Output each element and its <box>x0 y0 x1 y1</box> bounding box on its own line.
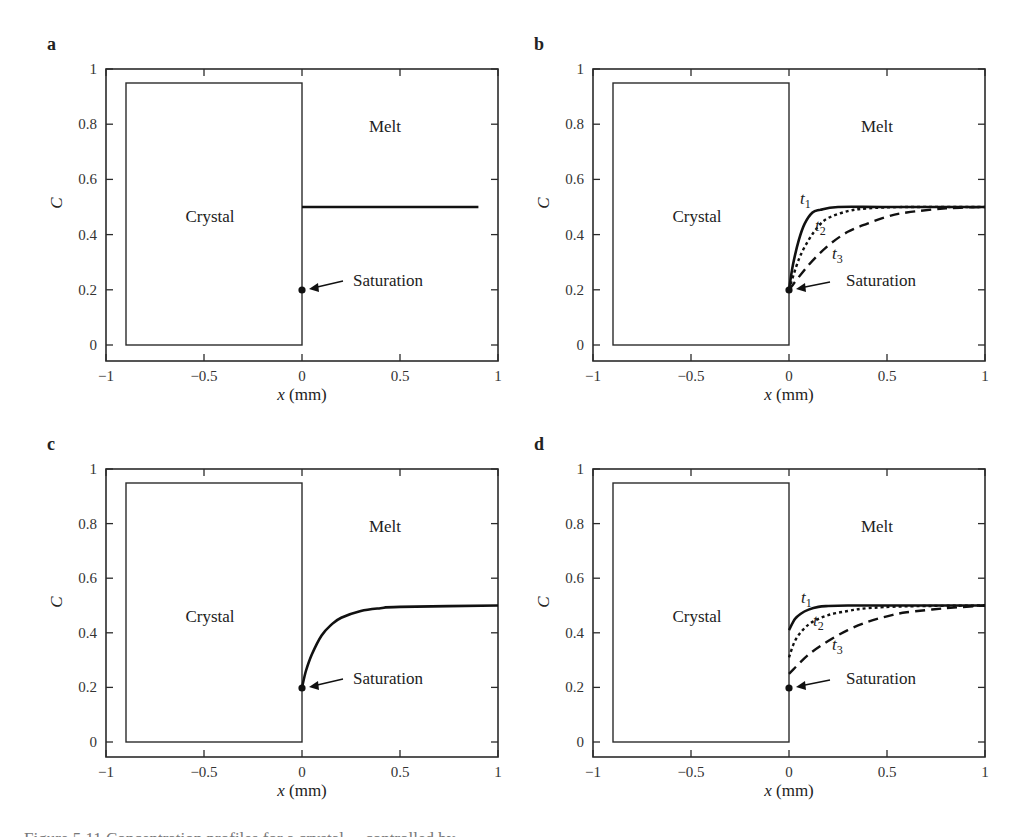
y-tick-label: 1 <box>577 61 585 77</box>
y-tick-label: 0.2 <box>565 679 584 695</box>
curve-label-t3: t3 <box>832 635 843 657</box>
x-tick-label: 1 <box>981 764 989 780</box>
panel-letter: c <box>47 434 55 454</box>
panel-d: d −1 −0.5 0 0.5 1 0 0.2 0.4 0.6 0.8 1 C … <box>534 434 989 800</box>
y-tick-label: 0 <box>90 734 98 750</box>
x-tick-labels: −1 −0.5 0 0.5 1 <box>585 764 989 780</box>
y-tick-label: 0.8 <box>565 116 584 132</box>
x-tick-label: −1 <box>98 368 114 384</box>
curve-t3 <box>789 606 985 674</box>
y-tick-label: 0.8 <box>78 516 97 532</box>
x-tick-label: 1 <box>981 368 989 384</box>
t-subscript: 3 <box>837 252 843 266</box>
crystal-label: Crystal <box>185 607 234 626</box>
y-tick-label: 0.6 <box>565 171 584 187</box>
saturation-point <box>785 286 792 293</box>
t-subscript: 2 <box>818 619 824 633</box>
x-tick-label: 1 <box>494 368 502 384</box>
saturation-label: Saturation <box>846 669 916 688</box>
x-tick-label: −0.5 <box>190 368 217 384</box>
panel-letter: b <box>534 34 544 54</box>
t-subscript: 1 <box>806 596 812 610</box>
curves <box>789 605 985 673</box>
t-subscript: 1 <box>805 197 811 211</box>
y-tick-labels: 0 0.2 0.4 0.6 0.8 1 <box>565 61 584 353</box>
x-axis-unit: (mm) <box>772 385 814 404</box>
curve-label-t2: t2 <box>813 611 824 633</box>
curve-label-t3: t3 <box>832 244 843 266</box>
x-axis-label: x (mm) <box>276 385 327 404</box>
y-axis-label: C <box>47 596 66 608</box>
y-tick-label: 0.2 <box>565 282 584 298</box>
panel-letter: a <box>47 34 56 54</box>
saturation-point <box>298 286 305 293</box>
y-tick-label: 1 <box>577 461 585 477</box>
y-tick-label: 1 <box>90 61 98 77</box>
x-tick-labels: −1 −0.5 0 0.5 1 <box>98 368 502 384</box>
y-tick-label: 0 <box>90 337 98 353</box>
saturation-point <box>785 684 792 691</box>
crystal-label: Crystal <box>185 207 234 226</box>
saturation-label: Saturation <box>846 271 916 290</box>
melt-label: Melt <box>369 517 401 536</box>
y-axis-label: C <box>47 197 66 209</box>
melt-label: Melt <box>861 117 893 136</box>
x-tick-labels: −1 −0.5 0 0.5 1 <box>98 764 502 780</box>
x-axis-label: x (mm) <box>763 385 814 404</box>
figure-caption: Figure 5.11 Concentration profiles for a… <box>24 828 1014 837</box>
crystal-label: Crystal <box>672 207 721 226</box>
y-tick-label: 0.4 <box>565 227 584 243</box>
y-tick-label: 0.4 <box>78 227 97 243</box>
y-tick-label: 0.4 <box>78 625 97 641</box>
y-tick-label: 0.2 <box>78 282 97 298</box>
arrowhead-icon <box>309 283 319 292</box>
arrowhead-icon <box>796 283 806 292</box>
crystal-label: Crystal <box>672 607 721 626</box>
y-tick-labels: 0 0.2 0.4 0.6 0.8 1 <box>78 61 97 353</box>
saturation-label: Saturation <box>353 271 423 290</box>
x-tick-label: −0.5 <box>190 764 217 780</box>
x-axis-unit: (mm) <box>285 781 327 800</box>
panel-a: a −1 −0.5 0 0.5 1 0 0.2 0.4 0.6 0.8 1 C … <box>47 34 502 404</box>
y-axis-label: C <box>534 197 553 209</box>
saturation-point <box>298 684 305 691</box>
melt-label: Melt <box>861 517 893 536</box>
x-tick-label: 0 <box>298 368 306 384</box>
x-tick-label: 1 <box>494 764 502 780</box>
x-axis-label: x (mm) <box>276 781 327 800</box>
figure: a −1 −0.5 0 0.5 1 0 0.2 0.4 0.6 0.8 1 C … <box>0 0 1028 837</box>
x-tick-label: −1 <box>585 368 601 384</box>
x-axis-unit: (mm) <box>772 781 814 800</box>
x-tick-label: 0.5 <box>391 368 410 384</box>
t-subscript: 3 <box>837 643 843 657</box>
x-tick-label: 0 <box>785 764 793 780</box>
y-tick-label: 0.6 <box>565 570 584 586</box>
x-tick-label: 0 <box>785 368 793 384</box>
x-tick-labels: −1 −0.5 0 0.5 1 <box>585 368 989 384</box>
y-tick-label: 0.8 <box>78 116 97 132</box>
y-tick-label: 1 <box>90 461 98 477</box>
panel-b: b −1 −0.5 0 0.5 1 0 0.2 0.4 0.6 0.8 1 C … <box>534 34 989 404</box>
y-tick-label: 0.6 <box>78 570 97 586</box>
y-tick-labels: 0 0.2 0.4 0.6 0.8 1 <box>78 461 97 750</box>
x-tick-label: 0.5 <box>878 368 897 384</box>
y-tick-label: 0.8 <box>565 516 584 532</box>
y-tick-label: 0.6 <box>78 171 97 187</box>
x-tick-label: −0.5 <box>677 368 704 384</box>
curve-label-t1: t1 <box>800 189 811 211</box>
x-tick-label: −1 <box>585 764 601 780</box>
x-axis-label: x (mm) <box>763 781 814 800</box>
saturation-label: Saturation <box>353 669 423 688</box>
y-tick-label: 0 <box>577 337 585 353</box>
x-axis-unit: (mm) <box>285 385 327 404</box>
panel-letter: d <box>534 434 544 454</box>
x-tick-label: 0.5 <box>878 764 897 780</box>
y-axis-label: C <box>534 596 553 608</box>
x-tick-label: −1 <box>98 764 114 780</box>
y-tick-label: 0 <box>577 734 585 750</box>
x-tick-label: 0.5 <box>391 764 410 780</box>
y-tick-label: 0.4 <box>565 625 584 641</box>
t-subscript: 2 <box>820 224 826 238</box>
arrowhead-icon <box>309 681 319 690</box>
y-tick-labels: 0 0.2 0.4 0.6 0.8 1 <box>565 461 584 750</box>
